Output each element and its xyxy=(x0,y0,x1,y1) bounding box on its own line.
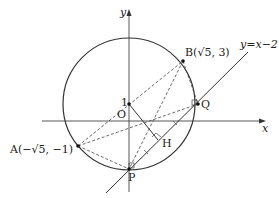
segment-center-H xyxy=(129,104,158,140)
point-P-label: P xyxy=(128,171,136,184)
point-Q xyxy=(196,102,200,106)
segment-AQ xyxy=(78,104,198,146)
line-label: y=x−2 xyxy=(239,38,278,51)
y-axis-arrow-icon xyxy=(127,9,132,16)
point-B-label: B(√5, 3) xyxy=(185,46,230,59)
segment-BQ xyxy=(183,61,198,104)
x-axis-label: x xyxy=(262,122,269,135)
coordinate-diagram: y x O 1 A(−√5, −1) B(√5, 3) P Q H y=x−2 xyxy=(0,0,279,198)
segment-AP xyxy=(78,146,129,169)
point-H-label: H xyxy=(162,137,172,150)
point-A xyxy=(76,144,80,148)
point-B xyxy=(181,59,185,63)
origin-label: O xyxy=(117,108,126,121)
center-label: 1 xyxy=(121,96,128,109)
point-Q-label: Q xyxy=(201,98,210,111)
point-A-label: A(−√5, −1) xyxy=(9,143,73,156)
y-axis-label: y xyxy=(119,6,127,19)
segment-BP xyxy=(129,61,183,169)
